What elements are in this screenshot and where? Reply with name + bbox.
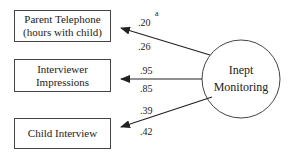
indicator-box-parent-telephone: Parent Telephone (hours with child) (14, 10, 111, 42)
loading-bottom-interviewer-impressions: .85 (140, 84, 153, 94)
loading-top-interviewer-impressions: .95 (140, 66, 153, 76)
loading-top-parent-telephone: .20 (138, 18, 151, 28)
loading-bottom-parent-telephone: .26 (138, 42, 151, 52)
arrow-child-interview (121, 97, 212, 127)
loading-superscript: a (155, 10, 159, 18)
indicator-label-line1: Child Interview (28, 127, 97, 140)
loading-bottom-child-interview: .42 (140, 127, 153, 137)
arrow-parent-telephone (121, 28, 210, 55)
latent-label-line2: Monitoring (202, 79, 280, 96)
loading-top-child-interview: .39 (140, 106, 153, 116)
latent-label: Inept Monitoring (202, 62, 280, 96)
indicator-box-interviewer-impressions: Interviewer Impressions (14, 59, 111, 92)
indicator-label-line1: Parent Telephone (23, 13, 102, 26)
indicator-label-line2: Impressions (36, 76, 89, 89)
indicator-label-line2: (hours with child) (23, 26, 102, 39)
latent-label-line1: Inept (202, 62, 280, 79)
indicator-label-line1: Interviewer (36, 63, 89, 76)
indicator-box-child-interview: Child Interview (14, 118, 111, 149)
